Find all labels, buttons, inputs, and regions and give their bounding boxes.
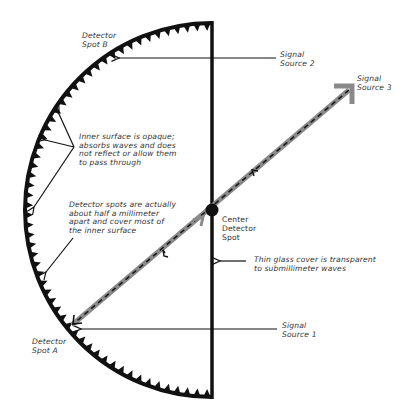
label-detector-spot-a: Detector Spot A: [32, 337, 69, 355]
label-glass-cover: Thin glass cover is transparent to submi…: [254, 255, 379, 273]
beam-chevron-lower: [163, 250, 168, 257]
label-center-detector-spot: Center Detector Spot: [222, 215, 259, 242]
detector-diagram: Detector Spot B Signal Source 2 Signal S…: [0, 0, 411, 418]
detector-spot-tooth: [184, 387, 190, 394]
detector-spot-tooth: [204, 389, 210, 396]
label-signal-source-2: Signal Source 2: [280, 50, 315, 68]
detector-spot-tooth: [26, 192, 33, 198]
label-signal-source-1: Signal Source 1: [282, 321, 317, 339]
detector-spots-leader: [46, 238, 73, 272]
label-detector-spots: Detector spots are actually about half a…: [69, 200, 179, 235]
detector-spot-tooth: [174, 27, 180, 34]
label-detector-spot-b: Detector Spot B: [82, 31, 119, 49]
inner-surface-leaders: [34, 114, 74, 207]
detector-spot-tooth: [204, 24, 210, 31]
detector-spot-tooth: [29, 172, 36, 178]
detector-spot-tooth: [27, 182, 34, 188]
detector-spot-tooth: [26, 212, 33, 218]
detector-spot-tooth: [27, 232, 34, 238]
label-inner-surface: Inner surface is opaque; absorbs waves a…: [79, 132, 179, 167]
detector-spot-tooth: [174, 386, 180, 393]
detector-spot-tooth: [184, 25, 190, 32]
center-detector-spot: [206, 204, 219, 217]
detector-spot-tooth: [26, 202, 33, 208]
detector-spot-tooth: [194, 24, 200, 31]
detector-spot-tooth: [194, 388, 200, 395]
label-signal-source-3: Signal Source 3: [357, 74, 392, 92]
detector-spot-tooth: [29, 242, 36, 248]
detector-spot-tooth: [26, 222, 33, 228]
